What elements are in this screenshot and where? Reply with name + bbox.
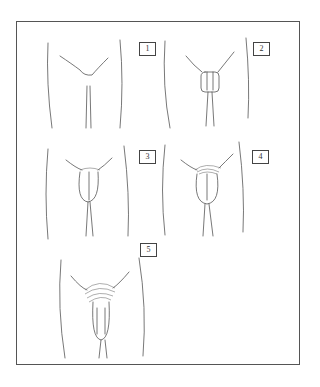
outline-drawing-icon [155, 140, 255, 238]
panel-stage-3 [38, 144, 138, 239]
panel-stage-5 [55, 258, 150, 358]
panel-label-4: 4 [252, 150, 269, 164]
panel-label-1: 1 [139, 42, 156, 56]
panel-stage-2 [160, 36, 255, 128]
panel-label-5: 5 [140, 243, 157, 257]
panel-stage-1 [40, 38, 135, 128]
outline-drawing-icon [160, 36, 255, 128]
panel-label-3: 3 [139, 150, 156, 164]
panel-stage-4 [155, 140, 255, 238]
panel-label-2: 2 [253, 42, 270, 56]
outline-drawing-icon [40, 38, 135, 128]
outline-drawing-icon [55, 258, 150, 358]
outline-drawing-icon [38, 144, 138, 239]
